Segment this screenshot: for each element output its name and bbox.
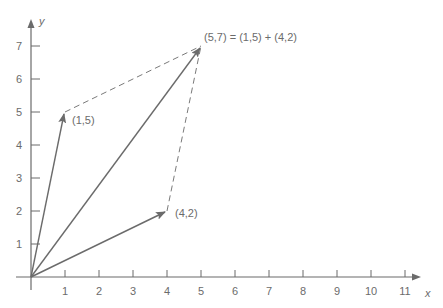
- x-tick-label: 8: [300, 285, 306, 297]
- x-axis-arrow-icon: [412, 274, 421, 281]
- vectors: [31, 48, 200, 277]
- y-tick-label: 1: [16, 238, 22, 250]
- parallelogram-dashed-lines: [65, 46, 201, 211]
- x-tick-label: 7: [266, 285, 272, 297]
- vector-b: [31, 212, 165, 277]
- label-vector-a: (1,5): [72, 114, 95, 126]
- x-tick-label: 1: [62, 285, 68, 297]
- y-tick-label: 4: [16, 139, 22, 151]
- axes: x y: [16, 15, 431, 299]
- dashed-line-a-to-sum: [65, 46, 201, 112]
- x-tick-label: 5: [198, 285, 204, 297]
- x-tick-label: 6: [232, 285, 238, 297]
- x-ticks: 1 2 3 4 5 6 7 8 9 10 11: [62, 270, 411, 297]
- x-tick-label: 4: [164, 285, 170, 297]
- x-tick-label: 3: [130, 285, 136, 297]
- label-vector-sum: (5,7) = (1,5) + (4,2): [204, 31, 297, 43]
- y-tick-label: 5: [16, 106, 22, 118]
- y-axis-label: y: [38, 15, 46, 27]
- x-tick-label: 9: [334, 285, 340, 297]
- y-axis-arrow-icon: [28, 19, 35, 28]
- x-tick-label: 10: [365, 285, 377, 297]
- x-axis-label: x: [424, 287, 431, 299]
- x-tick-label: 11: [399, 285, 410, 297]
- y-tick-label: 2: [16, 205, 22, 217]
- y-tick-label: 7: [16, 40, 22, 52]
- label-vector-b: (4,2): [175, 207, 198, 219]
- x-tick-label: 2: [96, 285, 102, 297]
- y-tick-label: 3: [16, 172, 22, 184]
- vector-diagram: x y 1 2 3 4 5 6 7 8 9 10 11 1 2: [0, 0, 443, 308]
- vector-sum: [31, 48, 200, 277]
- vector-a: [31, 114, 64, 277]
- y-ticks: 1 2 3 4 5 6 7: [16, 40, 40, 250]
- y-tick-label: 6: [16, 73, 22, 85]
